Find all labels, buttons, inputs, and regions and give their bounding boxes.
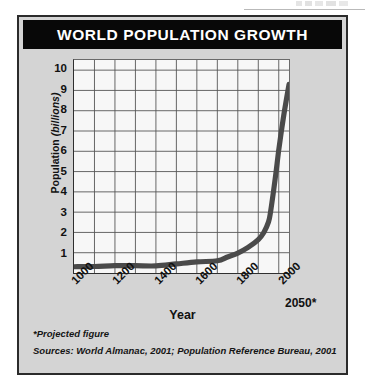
x-axis-title: Year [23,308,342,322]
x-axis-tick-labels: 2050* 100012001400160018002000 [73,274,303,310]
y-axis-tick-2: 2 [61,227,67,239]
scan-rule [244,9,365,10]
y-axis-tick-3: 3 [61,207,67,219]
scan-artifact [296,1,348,6]
y-axis-tick-1: 1 [61,248,67,260]
footnote-projected: *Projected figure [33,328,109,339]
y-axis-tick-8: 8 [61,104,67,116]
chart-title-bar: WORLD POPULATION GROWTH [23,20,342,49]
plot-block: Population (billions) 10987654321 2050* … [23,53,342,308]
y-axis-tick-6: 6 [61,145,67,157]
y-axis-tick-10: 10 [54,63,67,75]
plot-area [73,59,290,274]
y-axis-tick-9: 9 [61,84,67,96]
y-axis-tick-4: 4 [61,186,67,198]
population-curve [74,60,289,273]
page-title: WORLD POPULATION GROWTH [57,26,308,44]
y-axis-tick-7: 7 [61,125,67,137]
y-axis-tick-5: 5 [61,166,67,178]
chart-figure: WORLD POPULATION GROWTH Population (bill… [17,15,348,375]
y-axis-tick-labels: 10987654321 [45,77,67,273]
footnote-sources: Sources: World Almanac, 2001; Population… [33,345,337,356]
